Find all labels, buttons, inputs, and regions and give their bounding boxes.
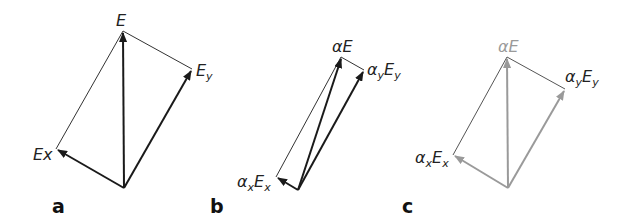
parallelogram-outline bbox=[453, 57, 565, 155]
x-component-arrow bbox=[278, 178, 298, 190]
y-component-label: Ey bbox=[196, 61, 213, 83]
x-component-arrow bbox=[455, 156, 508, 188]
y-component-arrow bbox=[508, 91, 564, 188]
resultant-label: αE bbox=[332, 37, 354, 56]
panel-label-c: c bbox=[402, 195, 413, 217]
panel-b: αE αxEx αyEy b bbox=[210, 37, 401, 217]
panel-label-b: b bbox=[210, 195, 224, 217]
vector-decomposition-diagram: E Ex Ey a αE αxEx αyEy b αE αxEx αyEy c bbox=[0, 0, 631, 218]
panel-a: E Ex Ey a bbox=[33, 11, 213, 217]
parallelogram-outline bbox=[276, 57, 364, 177]
resultant-vector-arrow bbox=[507, 59, 508, 188]
y-component-label: αyEy bbox=[367, 60, 401, 82]
x-component-label: αxEx bbox=[237, 172, 271, 194]
x-component-label: αxEx bbox=[415, 148, 449, 170]
x-component-arrow bbox=[58, 150, 124, 188]
panel-label-a: a bbox=[52, 195, 65, 217]
x-component-label: Ex bbox=[33, 145, 53, 164]
y-component-label: αyEy bbox=[565, 67, 599, 89]
panel-c: αE αxEx αyEy c bbox=[402, 37, 599, 217]
resultant-vector-arrow bbox=[123, 33, 124, 188]
resultant-label: αE bbox=[498, 37, 520, 56]
resultant-label: E bbox=[116, 11, 127, 30]
y-component-arrow bbox=[124, 71, 191, 188]
